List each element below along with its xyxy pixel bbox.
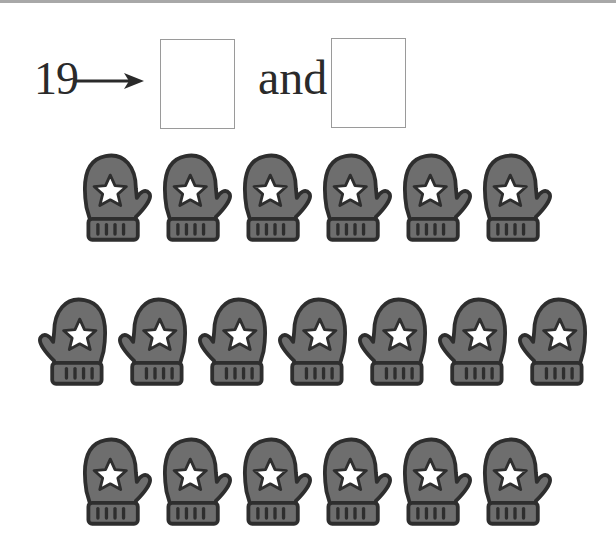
mitten-with-star-icon [237,432,313,530]
answer-box-1[interactable] [160,39,235,129]
mitten-with-star-icon [37,292,113,390]
mitten-with-star-icon [477,432,553,530]
arrow-right-icon [74,66,144,96]
mitten-with-star-icon [397,432,473,530]
mitten-with-star-icon [197,292,273,390]
mitten-with-star-icon [237,148,313,246]
mitten-with-star-icon [437,292,513,390]
mitten-with-star-icon [157,148,233,246]
mitten-with-star-icon [517,292,593,390]
mitten-group-2 [0,292,616,392]
mitten-with-star-icon [317,432,393,530]
mitten-with-star-icon [277,292,353,390]
answer-box-2[interactable] [331,38,406,128]
question-row: 19 and [0,0,616,130]
mitten-with-star-icon [77,148,153,246]
mitten-with-star-icon [477,148,553,246]
mitten-with-star-icon [157,432,233,530]
mitten-with-star-icon [117,292,193,390]
connector-word: and [258,50,327,105]
mitten-group-1 [0,148,616,248]
mitten-with-star-icon [357,292,433,390]
mitten-with-star-icon [317,148,393,246]
mitten-with-star-icon [397,148,473,246]
mitten-group-3 [0,432,616,532]
given-number: 19 [34,52,78,105]
mitten-with-star-icon [77,432,153,530]
